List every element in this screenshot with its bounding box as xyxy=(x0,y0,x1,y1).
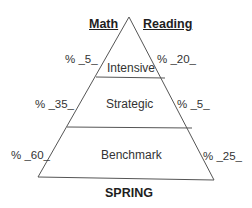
tier-intensive-label: Intensive xyxy=(107,61,155,75)
math-intensive-percent: % _5_ xyxy=(65,52,98,66)
math-header: Math xyxy=(89,17,118,31)
reading-intensive-percent: % _20_ xyxy=(157,52,196,66)
tier-divider-intensive-strategic xyxy=(96,77,165,78)
math-strategic-percent: % _35_ xyxy=(35,97,74,111)
math-benchmark-percent: % _60_ xyxy=(11,148,50,162)
season-label: SPRING xyxy=(105,186,153,200)
reading-benchmark-percent: % _25_ xyxy=(203,149,242,163)
tier-divider-strategic-benchmark xyxy=(67,127,192,128)
tier-benchmark-label: Benchmark xyxy=(101,148,162,162)
reading-header: Reading xyxy=(143,17,192,31)
tier-strategic-label: Strategic xyxy=(106,97,153,111)
reading-strategic-percent: % _5_ xyxy=(177,97,210,111)
